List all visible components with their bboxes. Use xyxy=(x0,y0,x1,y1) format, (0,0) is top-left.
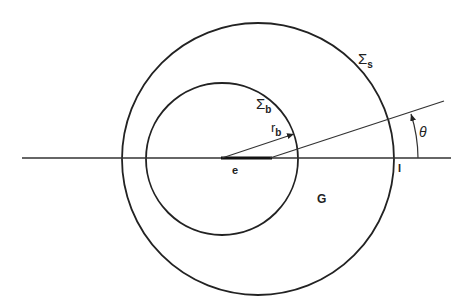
theta-arc xyxy=(411,114,418,158)
theta-label: θ xyxy=(419,124,427,140)
i-label: I xyxy=(398,162,401,174)
radius-arrow xyxy=(222,134,294,158)
sigma-b-label: Σb xyxy=(256,95,271,115)
e-label: e xyxy=(232,164,238,176)
g-label: G xyxy=(317,192,326,206)
sigma-s-label: Σs xyxy=(358,50,373,70)
r-b-label: rb xyxy=(271,120,281,138)
diagram-canvas: Σs Σb rb θ e G I xyxy=(0,0,468,305)
